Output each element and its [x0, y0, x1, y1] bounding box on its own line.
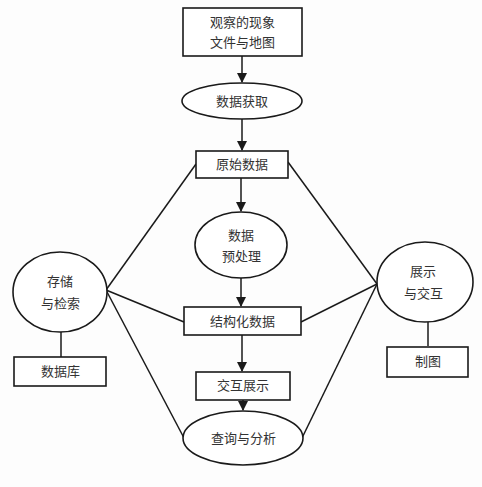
node-storage-line-2: 与检索 — [41, 296, 80, 311]
node-display: 展示 与交互 — [377, 242, 473, 322]
node-preprocess-line-1: 数据 — [228, 228, 254, 243]
node-database: 数据库 — [14, 357, 106, 386]
edge-display-to-structured — [301, 284, 377, 322]
edge-storage-to-query — [106, 290, 184, 438]
node-display-line-2: 与交互 — [404, 286, 443, 301]
node-interactive-display-label: 交互展示 — [217, 378, 269, 393]
edge-storage-to-structured — [106, 290, 184, 322]
edge-display-to-raw — [288, 162, 377, 284]
node-query: 查询与分析 — [183, 411, 303, 465]
node-preprocess-line-2: 预处理 — [222, 249, 261, 264]
node-raw: 原始数据 — [196, 151, 288, 178]
diagram-svg: 观察的现象 文件与地图 数据获取 原始数据 数据 预处理 结构化数据 交互展示 … — [0, 0, 482, 487]
node-storage-line-1: 存储 — [47, 274, 73, 289]
node-storage: 存储 与检索 — [13, 252, 107, 332]
node-database-label: 数据库 — [41, 364, 80, 379]
node-observed: 观察的现象 文件与地图 — [183, 8, 302, 56]
node-acquire: 数据获取 — [182, 83, 302, 119]
node-preprocess: 数据 预处理 — [195, 212, 287, 278]
edge-display-to-query — [302, 284, 377, 438]
node-interactive-display: 交互展示 — [196, 372, 290, 400]
node-structured: 结构化数据 — [184, 307, 301, 335]
node-raw-label: 原始数据 — [216, 157, 268, 172]
data-flow-diagram: 观察的现象 文件与地图 数据获取 原始数据 数据 预处理 结构化数据 交互展示 … — [0, 0, 482, 487]
edge-storage-to-raw — [106, 164, 196, 290]
node-query-label: 查询与分析 — [211, 431, 276, 446]
node-mapping: 制图 — [387, 347, 468, 377]
node-structured-label: 结构化数据 — [210, 314, 275, 329]
node-observed-line-2: 文件与地图 — [210, 35, 275, 50]
node-acquire-label: 数据获取 — [216, 94, 268, 109]
node-display-line-1: 展示 — [410, 264, 436, 279]
node-mapping-label: 制图 — [415, 354, 441, 369]
node-observed-line-1: 观察的现象 — [210, 15, 275, 30]
